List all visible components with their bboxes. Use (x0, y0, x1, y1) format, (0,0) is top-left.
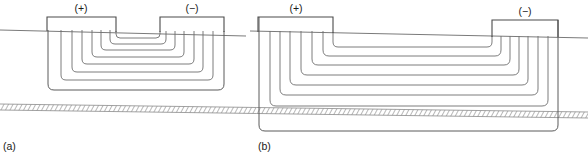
panel-a-surface-line (0, 30, 246, 36)
panel-a-caption: (a) (3, 140, 16, 152)
panel-a-flow-line-6 (61, 30, 213, 80)
panel-a-flow-line-4 (82, 30, 194, 64)
panel-a: (+) (−) (a) (0, 2, 246, 152)
figure-canvas: (+) (−) (a) (0, 0, 588, 156)
panel-a-flow-line-7 (48, 30, 224, 90)
panel-a-flow-line-0 (116, 31, 160, 38)
panel-b-negative-electrode (492, 20, 558, 37)
panel-b: (+) (−) (b) (250, 2, 588, 152)
panel-b-positive-electrode (258, 17, 333, 33)
panel-a-positive-electrode (47, 17, 116, 32)
panel-a-positive-label: (+) (74, 2, 87, 14)
panel-a-negative-electrode (160, 17, 224, 32)
panel-a-negative-label: (−) (185, 2, 198, 14)
panel-b-negative-label: (−) (518, 5, 531, 17)
panel-b-caption: (b) (258, 140, 271, 152)
panel-a-electrodes (47, 17, 224, 32)
panel-a-flow-line-1 (110, 30, 166, 44)
panel-a-flow-lines (48, 30, 224, 90)
figure-root: (+) (−) (a) (0, 0, 588, 156)
panel-b-positive-label: (+) (289, 2, 302, 14)
panel-b-flow-line-3 (301, 31, 519, 75)
